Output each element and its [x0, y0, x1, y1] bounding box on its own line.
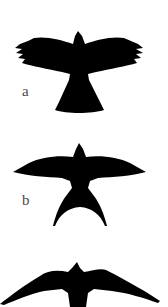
silhouettes-canvas: [0, 0, 168, 307]
panel-label-a: a: [22, 84, 29, 99]
bird-b-silhouette: [13, 143, 146, 226]
bird-c-silhouette: [0, 262, 160, 307]
bird-a-silhouette: [15, 31, 143, 113]
panel-label-b: b: [22, 193, 30, 208]
bird-silhouette-figure: a b: [0, 0, 168, 307]
